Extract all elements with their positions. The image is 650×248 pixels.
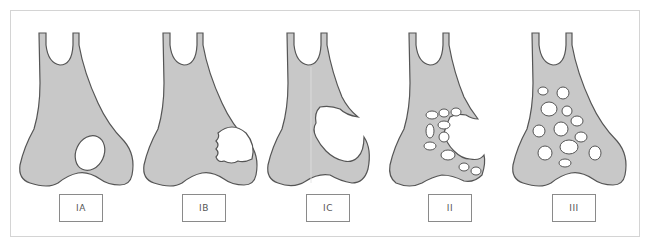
- label-ia: IA: [59, 194, 103, 222]
- bone-ia: [20, 33, 133, 186]
- bone-ib: [144, 33, 257, 186]
- bone-ic: [268, 33, 370, 186]
- bone-ii: [390, 33, 485, 186]
- bone-iii: [513, 33, 626, 186]
- label-ic: IC: [306, 194, 350, 222]
- label-ib: IB: [182, 194, 226, 222]
- label-ii: II: [428, 194, 472, 222]
- label-iii: III: [552, 194, 596, 222]
